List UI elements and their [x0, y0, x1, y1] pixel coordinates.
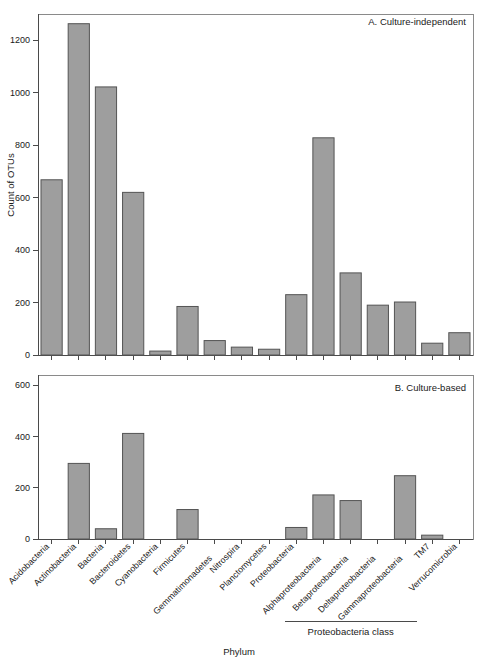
x-axis-label: Phylum — [223, 646, 255, 657]
bar — [394, 476, 415, 539]
bar — [394, 302, 415, 355]
bar — [258, 349, 279, 355]
y-tick-label: 600 — [15, 380, 30, 390]
bar — [286, 527, 307, 539]
y-tick-label: 800 — [15, 140, 30, 150]
y-axis-label: Count of OTUs — [5, 153, 16, 217]
bar — [340, 501, 361, 539]
bar — [68, 24, 89, 355]
bar — [313, 495, 334, 539]
bar — [286, 295, 307, 355]
panel-b-x-ticks — [52, 539, 460, 544]
bar-chart-figure: 020040060080010001200 A. Culture-indepen… — [0, 0, 478, 662]
y-tick-label: 0 — [25, 534, 30, 544]
proteobacteria-class-label: Proteobacteria class — [308, 626, 394, 637]
bar — [95, 87, 116, 355]
bar — [123, 192, 144, 355]
y-tick-label: 0 — [25, 350, 30, 360]
proteobacteria-class-bracket-group: Proteobacteria class — [285, 621, 417, 637]
x-axis-category-labels: AcidobacteriaActinobacteriaBacteriaBacte… — [6, 541, 459, 622]
panel-a-x-ticks — [52, 355, 460, 360]
y-tick-label: 200 — [15, 483, 30, 493]
y-tick-label: 400 — [15, 245, 30, 255]
bar — [123, 433, 144, 539]
y-tick-label: 400 — [15, 432, 30, 442]
panel-b-culture-based: 0200400600 B. Culture-based — [15, 375, 473, 544]
bar — [422, 535, 443, 539]
bar — [231, 347, 252, 355]
bar — [340, 273, 361, 355]
bar — [449, 333, 470, 355]
panel-b-bars — [68, 433, 443, 539]
y-tick-label: 600 — [15, 193, 30, 203]
bar — [204, 341, 225, 355]
panel-a-bars — [41, 24, 470, 355]
bar — [422, 343, 443, 355]
panel-a-title: A. Culture-independent — [368, 16, 466, 27]
bar — [313, 138, 334, 355]
bar — [177, 306, 198, 355]
x-category-label: Verrucomicrobia — [407, 541, 459, 593]
figure-container: 020040060080010001200 A. Culture-indepen… — [0, 0, 478, 662]
bar — [95, 529, 116, 539]
x-category-label: Planctomycetes — [218, 541, 269, 592]
bar — [150, 351, 171, 355]
y-tick-label: 1000 — [10, 88, 30, 98]
panel-a-culture-independent: 020040060080010001200 A. Culture-indepen… — [10, 14, 473, 360]
bar — [177, 510, 198, 539]
panel-b-title: B. Culture-based — [395, 382, 466, 393]
y-tick-label: 200 — [15, 298, 30, 308]
bar — [41, 180, 62, 355]
bar — [68, 463, 89, 539]
x-category-label: TM7 — [412, 541, 432, 561]
bar — [367, 305, 388, 355]
y-tick-label: 1200 — [10, 35, 30, 45]
